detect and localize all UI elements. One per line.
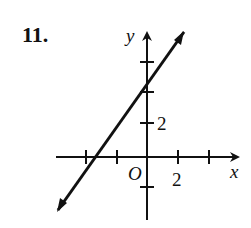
origin-label: O (128, 163, 142, 184)
y-tick-label: 2 (157, 113, 167, 134)
coordinate-graph: y x O 2 2 (0, 0, 251, 228)
x-tick-label: 2 (172, 169, 182, 190)
y-axis-label: y (124, 25, 135, 46)
x-axis-label: x (229, 161, 239, 182)
